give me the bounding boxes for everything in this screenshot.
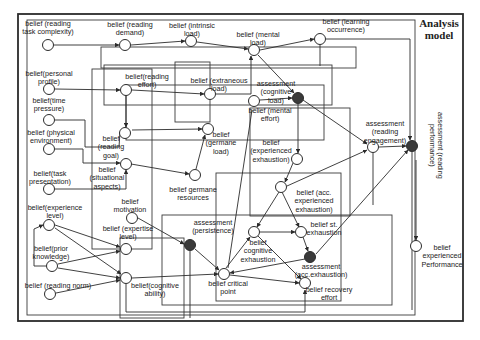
assessment-node-acc_exhaustion [305, 252, 316, 263]
belief-node-critical_point [219, 269, 230, 280]
node-label-acc_exp_exhaustion: belief (acc. experienced exhaustion) [274, 189, 354, 214]
belief-node-expertise_level [121, 244, 132, 255]
node-label-task_complexity: belief (reading task complexity) [8, 20, 88, 37]
node-label-expertise_level: belief (expertise level) [88, 225, 168, 242]
node-label-cognitive_load: assessment (cognitive load) [236, 80, 316, 105]
belief-node-reading_demand [120, 40, 131, 51]
node-label-exp_performance: belief experienced Performance [402, 244, 480, 269]
belief-node-learning_occurrence [315, 34, 326, 45]
node-label-cognitive_ability: belief(cognitive ability) [115, 282, 195, 299]
node-label-learning_occurrence: belief (learning occurrence) [306, 18, 386, 35]
node-label-reading_norm: belief (reading norm) [18, 282, 98, 290]
belief-node-time_pressure [44, 115, 55, 126]
node-label-experience_level: belief(experience level) [15, 204, 95, 221]
node-label-acc_exhaustion: assessment (acc.exhaustion) [281, 263, 361, 280]
node-label-recovery_effort: belief recovery effort [289, 286, 369, 303]
node-label-mental_effort: belief (mental effort) [230, 107, 310, 124]
node-label-prior_knowledge: belief(prior knowledge) [11, 245, 91, 262]
assessment-node-persistence [185, 240, 196, 251]
node-label-mental_load: belief (mental load) [218, 31, 298, 48]
node-label-exp_exhaustion: belief (experienced exhaustion) [231, 139, 311, 164]
belief-node-prior_knowledge [47, 261, 58, 272]
belief-node-germane_resources [190, 170, 201, 181]
node-label-personal_profile: belief(personal profile) [9, 70, 89, 87]
node-label-motivation: belief motivation [90, 198, 170, 215]
belief-node-experience_level [44, 220, 55, 231]
node-label-physical_env: belief (physical environment) [11, 129, 91, 146]
node-label-persistence: assessment (persistence) [173, 219, 253, 236]
diagram-title: Analysis model [410, 17, 468, 41]
belief-node-task_complexity [43, 40, 54, 51]
node-label-time_pressure: belief(time pressure) [9, 97, 89, 114]
node-label-st_exhaustion: belief st. exhaustion [284, 221, 364, 238]
node-label-reading_engagement: assessment (reading engagement) [345, 120, 425, 145]
node-label-critical_point: belief critical point [188, 280, 268, 297]
node-label-cognitive_exhaustion: belief cognitive exhaustion [218, 239, 298, 264]
node-label-reading_effort: belief(reading effort) [107, 73, 187, 90]
node-label-task_presentation: belief(task presentation) [10, 170, 90, 187]
node-label-reading_performance: assessment (reading performance) [427, 112, 444, 179]
